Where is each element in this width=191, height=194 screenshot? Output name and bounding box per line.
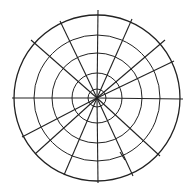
spoke-2 xyxy=(97,98,98,183)
polar-grid-canvas xyxy=(0,0,191,194)
spoke-6 xyxy=(60,21,97,98)
spoke-7 xyxy=(97,19,132,98)
spoke-12 xyxy=(64,98,97,175)
spoke-8 xyxy=(97,40,165,98)
spoke-1 xyxy=(97,10,98,98)
spoke-14 xyxy=(97,98,133,176)
spoke-9 xyxy=(97,61,174,98)
spoke-4 xyxy=(97,98,183,99)
polar-grid-diagram xyxy=(0,0,191,194)
spoke-13 xyxy=(97,98,160,156)
